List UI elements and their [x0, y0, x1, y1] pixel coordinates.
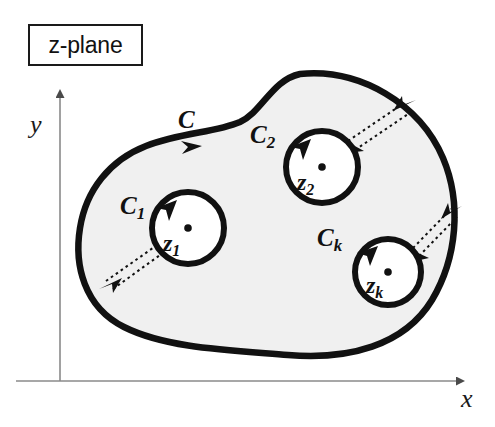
inner-contour-c1-label-text: C: [120, 192, 137, 219]
singular-point-zk-label: zk: [366, 273, 383, 297]
inner-contour-c2-label: C2: [250, 122, 275, 147]
inner-contour-c2-label-subscript: 2: [267, 133, 276, 152]
singular-point-z1-label-text: z: [163, 230, 172, 256]
singular-point-z1-dot: [184, 224, 192, 232]
z-plane-caption-box: z-plane: [28, 24, 143, 66]
inner-contour-ck: [355, 239, 421, 305]
singular-point-zk-label-subscript: k: [375, 284, 383, 301]
outer-contour-label-text: C: [178, 106, 195, 133]
singular-point-z1-label: z1: [163, 231, 180, 255]
inner-contour-c2-label-text: C: [250, 121, 267, 148]
z-plane-caption-text: z-plane: [48, 34, 122, 57]
singular-point-zk-dot: [384, 268, 392, 276]
singular-point-z2-dot: [318, 163, 326, 171]
singular-point-z2-label-text: z: [297, 169, 306, 195]
singular-point-z2-label-subscript: 2: [306, 181, 314, 198]
inner-contour-ck-label: Ck: [317, 225, 342, 250]
singular-point-z1-label-subscript: 1: [172, 242, 180, 259]
x-axis-label: x: [461, 386, 473, 412]
singular-point-z2-label: z2: [297, 170, 314, 194]
y-axis-label: y: [30, 112, 42, 138]
inner-contour-c1-label: C1: [120, 193, 145, 218]
inner-contour-ck-label-subscript: k: [334, 236, 343, 255]
singular-point-zk-label-text: z: [366, 272, 375, 298]
inner-contour-ck-label-text: C: [317, 224, 334, 251]
inner-contour-c1-label-subscript: 1: [137, 204, 146, 223]
diagram-canvas: z-plane y x C C1 C2 Ck z1 z2 zk: [0, 0, 495, 427]
outer-contour-label: C: [178, 107, 195, 132]
